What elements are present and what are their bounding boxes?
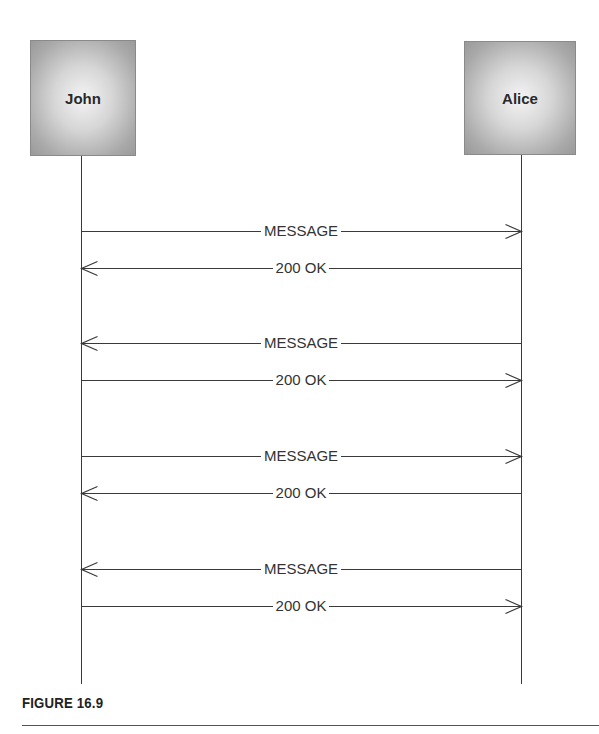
message-row: 200 OK [82,370,520,390]
message-label: MESSAGE [261,447,341,465]
message-label: MESSAGE [261,222,341,240]
message-label: MESSAGE [261,560,341,578]
message-row: MESSAGE [82,446,520,466]
message-row: 200 OK [82,258,520,278]
message-row: MESSAGE [82,559,520,579]
lifeline-john [81,156,82,684]
message-label: 200 OK [273,259,330,277]
message-row: 200 OK [82,483,520,503]
actor-box-alice: Alice [464,41,576,155]
caption-divider [22,725,599,726]
message-row: MESSAGE [82,333,520,353]
message-label: 200 OK [273,371,330,389]
message-label: MESSAGE [261,334,341,352]
lifeline-alice [521,155,522,684]
message-row: MESSAGE [82,221,520,241]
actor-label-alice: Alice [502,90,538,107]
figure-caption: FIGURE 16.9 [22,694,103,711]
message-row: 200 OK [82,596,520,616]
message-label: 200 OK [273,597,330,615]
actor-box-john: John [30,40,136,156]
actor-label-john: John [65,90,101,107]
message-label: 200 OK [273,484,330,502]
